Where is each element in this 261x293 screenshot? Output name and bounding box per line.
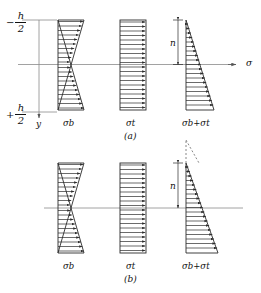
sigma-t-label-b: σt	[126, 261, 135, 271]
h-numerator-top: h	[18, 11, 24, 21]
caption-b: (b)	[124, 274, 137, 284]
plus-sign: +	[6, 109, 14, 120]
sigma-b-label-b: σb	[63, 261, 74, 271]
panel-a-bending-distribution	[58, 20, 84, 110]
sigma-t-label-a: σt	[126, 118, 135, 128]
dimension-n-label-b: n	[170, 181, 176, 191]
sigma-sum-label-a: σb+σt	[182, 118, 210, 128]
h-numerator-bottom: h	[18, 103, 24, 113]
stress-distribution-figure: − h 2 + h 2 y σ n σb σt σb+σt (a) n σb σ…	[0, 0, 261, 293]
dashed-apex-lines	[186, 140, 199, 163]
ordinate-bottom-plus-h-over-2: + h 2	[6, 103, 26, 126]
panel-a-axial-distribution	[120, 20, 146, 110]
minus-sign: −	[6, 17, 14, 28]
two-denominator-bottom: 2	[18, 116, 24, 126]
ordinate-top-minus-h-over-2: − h 2	[6, 11, 26, 34]
sigma-b-label-a: σb	[63, 118, 74, 128]
two-denominator-top: 2	[18, 24, 24, 34]
diagram-canvas	[0, 0, 261, 293]
panel-b-combined-distribution	[186, 140, 218, 253]
panel-a-combined-distribution	[186, 20, 214, 110]
dimension-n-label-a: n	[170, 38, 176, 48]
y-axis-label: y	[36, 119, 41, 129]
sigma-axis-label: σ	[246, 58, 252, 68]
caption-a: (a)	[124, 131, 136, 141]
sigma-sum-label-b: σb+σt	[182, 261, 210, 271]
